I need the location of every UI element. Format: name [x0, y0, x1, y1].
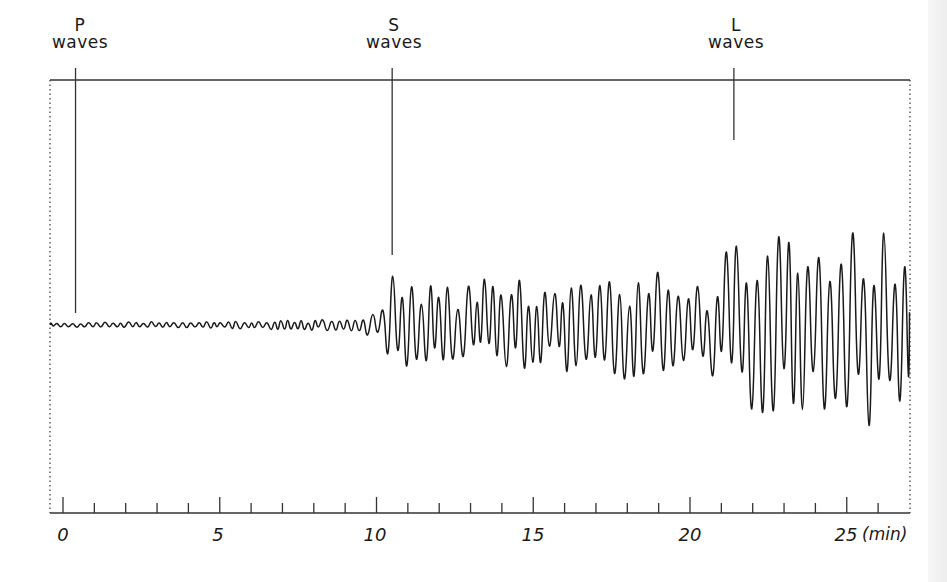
time-unit-label: (min) [862, 524, 907, 544]
l-waves-word: waves [704, 34, 768, 51]
seismogram-chart [0, 0, 947, 582]
tick-label-25: 25 [835, 524, 858, 545]
tick-label-15: 15 [522, 524, 545, 545]
wave-marker-lines [76, 68, 734, 313]
tick-label-10: 10 [364, 524, 387, 545]
p-waves-label: P waves [48, 17, 112, 51]
s-waves-word: waves [362, 34, 426, 51]
tick-label-5: 5 [212, 524, 223, 545]
time-axis-ticks [63, 497, 878, 513]
l-waves-label: L waves [704, 17, 768, 51]
s-waves-label: S waves [362, 17, 426, 51]
tick-label-0: 0 [57, 524, 68, 545]
seismogram-trace [51, 233, 910, 425]
p-waves-word: waves [48, 34, 112, 51]
tick-label-20: 20 [679, 524, 702, 545]
